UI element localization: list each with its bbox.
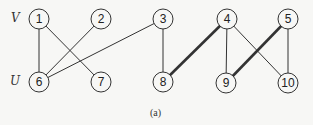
node-6: 6 — [29, 72, 49, 92]
node-label: 3 — [160, 12, 167, 26]
node-label: 7 — [98, 75, 105, 89]
node-label: 9 — [223, 76, 230, 90]
edge-4-8 — [163, 19, 227, 82]
node-2: 2 — [91, 9, 111, 29]
node-10: 10 — [278, 73, 298, 93]
node-1: 1 — [29, 9, 49, 29]
bipartite-graph-diagram: V U 12345678910 (a) — [0, 0, 313, 125]
node-8: 8 — [153, 72, 173, 92]
node-4: 4 — [217, 9, 237, 29]
node-label: 4 — [224, 12, 231, 26]
node-label: 1 — [36, 12, 43, 26]
node-label: 10 — [281, 76, 295, 90]
node-label: 2 — [98, 12, 105, 26]
node-9: 9 — [216, 73, 236, 93]
figure-caption: (a) — [150, 107, 161, 118]
node-5: 5 — [278, 9, 298, 29]
node-label: 8 — [160, 75, 167, 89]
node-7: 7 — [91, 72, 111, 92]
node-3: 3 — [153, 9, 173, 29]
node-label: 5 — [285, 12, 292, 26]
node-label: 6 — [36, 75, 43, 89]
